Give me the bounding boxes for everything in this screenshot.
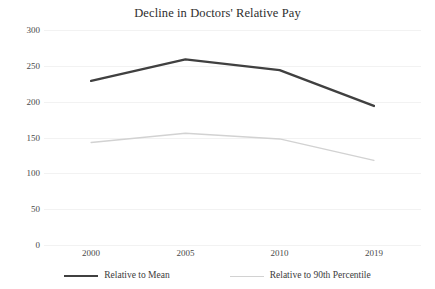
legend-label: Relative to Mean [104, 271, 169, 281]
x-tick-label-2000: 2000 [82, 249, 100, 258]
x-tick-label-2010: 2010 [271, 249, 289, 258]
x-tick-label-2005: 2005 [176, 249, 194, 258]
y-tick-label-150: 150 [0, 133, 40, 142]
line-swatch-icon [230, 276, 264, 277]
legend-item-relative-to-90th-percentile[interactable]: Relative to 90th Percentile [230, 271, 371, 281]
series-container [44, 30, 421, 245]
series-line-relative-to-90th-percentile [91, 133, 374, 160]
y-tick-label-50: 50 [0, 205, 40, 214]
chart-title: Decline in Doctors' Relative Pay [0, 6, 435, 21]
legend-label: Relative to 90th Percentile [270, 271, 371, 281]
x-axis: 2000 2005 2010 2019 [44, 249, 421, 265]
y-tick-label-200: 200 [0, 97, 40, 106]
line-chart: Decline in Doctors' Relative Pay 300 250… [0, 0, 435, 289]
gridline-0 [44, 245, 421, 246]
legend-item-relative-to-mean[interactable]: Relative to Mean [64, 271, 169, 281]
y-tick-label-0: 0 [0, 241, 40, 250]
y-axis: 300 250 200 150 100 50 0 [0, 30, 40, 245]
series-line-relative-to-mean [91, 59, 374, 106]
y-tick-label-100: 100 [0, 169, 40, 178]
x-tick-label-2019: 2019 [365, 249, 383, 258]
y-tick-label-300: 300 [0, 26, 40, 35]
chart-legend: Relative to Mean Relative to 90th Percen… [0, 266, 435, 286]
plot-area [44, 30, 421, 245]
line-swatch-icon [64, 275, 98, 277]
y-tick-label-250: 250 [0, 61, 40, 70]
